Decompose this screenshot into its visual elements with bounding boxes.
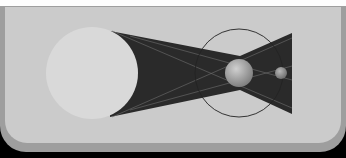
eclipse-diagram xyxy=(0,0,346,158)
sun xyxy=(46,27,138,119)
earth xyxy=(225,59,253,87)
moon xyxy=(275,67,287,79)
